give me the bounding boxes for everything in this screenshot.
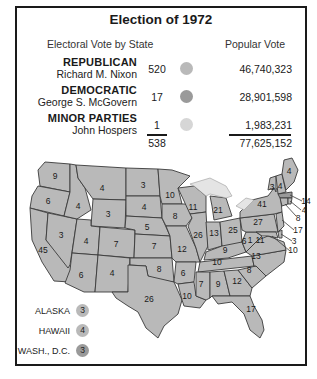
svg-text:4: 4 bbox=[100, 183, 105, 193]
svg-text:3: 3 bbox=[270, 182, 275, 192]
svg-text:41: 41 bbox=[257, 199, 267, 209]
svg-text:21: 21 bbox=[213, 205, 223, 215]
svg-text:8: 8 bbox=[157, 264, 162, 274]
svg-text:10: 10 bbox=[288, 245, 298, 255]
svg-text:13: 13 bbox=[209, 228, 219, 238]
svg-text:8: 8 bbox=[173, 211, 178, 221]
svg-text:9: 9 bbox=[53, 171, 58, 181]
svg-text:8: 8 bbox=[247, 265, 252, 275]
svg-text:6: 6 bbox=[46, 196, 51, 206]
svg-text:4: 4 bbox=[142, 202, 147, 212]
svg-text:25: 25 bbox=[228, 225, 238, 235]
legend-dc: WASH., D.C.3 bbox=[10, 344, 89, 357]
svg-text:11: 11 bbox=[189, 202, 198, 212]
svg-text:27: 27 bbox=[253, 217, 263, 227]
svg-text:45: 45 bbox=[38, 245, 48, 255]
svg-text:17: 17 bbox=[246, 304, 256, 314]
svg-text:10: 10 bbox=[212, 257, 222, 267]
svg-text:8: 8 bbox=[296, 213, 301, 223]
svg-text:3: 3 bbox=[141, 180, 146, 190]
svg-text:9: 9 bbox=[216, 279, 221, 289]
us-map: 9 6 45 3 4 4 3 4 6 7 4 3 4 5 7 8 26 10 8… bbox=[0, 0, 317, 379]
legend-label: WASH., D.C. bbox=[10, 346, 70, 356]
svg-text:10: 10 bbox=[182, 291, 192, 301]
svg-text:26: 26 bbox=[144, 294, 154, 304]
svg-text:17: 17 bbox=[293, 225, 303, 235]
svg-text:6: 6 bbox=[79, 270, 84, 280]
svg-text:4: 4 bbox=[302, 205, 307, 215]
svg-text:12: 12 bbox=[177, 244, 187, 254]
alaska-votes-icon: 3 bbox=[76, 304, 89, 317]
dc-votes-icon: 3 bbox=[76, 344, 89, 357]
svg-text:12: 12 bbox=[232, 276, 242, 286]
svg-text:7: 7 bbox=[152, 241, 157, 251]
svg-text:4: 4 bbox=[110, 268, 115, 278]
legend-hawaii: HAWAII4 bbox=[10, 324, 89, 337]
svg-text:11: 11 bbox=[256, 235, 265, 245]
svg-text:6: 6 bbox=[181, 268, 186, 278]
svg-text:7: 7 bbox=[199, 279, 204, 289]
svg-text:9: 9 bbox=[223, 245, 228, 255]
svg-text:3: 3 bbox=[106, 209, 111, 219]
svg-text:10: 10 bbox=[165, 190, 175, 200]
svg-text:4: 4 bbox=[76, 201, 81, 211]
hawaii-votes-icon: 4 bbox=[76, 324, 89, 337]
svg-text:5: 5 bbox=[145, 222, 150, 232]
svg-text:1: 1 bbox=[248, 235, 253, 245]
svg-text:26: 26 bbox=[193, 230, 203, 240]
legend-label: ALASKA bbox=[10, 306, 70, 316]
svg-text:4: 4 bbox=[278, 181, 283, 191]
legend-alaska: ALASKA3 bbox=[10, 304, 89, 317]
svg-text:13: 13 bbox=[251, 251, 261, 261]
svg-text:6: 6 bbox=[242, 236, 247, 246]
state-fl bbox=[212, 296, 264, 338]
svg-text:4: 4 bbox=[287, 166, 292, 176]
svg-text:4: 4 bbox=[84, 236, 89, 246]
svg-text:7: 7 bbox=[114, 239, 119, 249]
legend-label: HAWAII bbox=[10, 326, 70, 336]
svg-text:3: 3 bbox=[59, 230, 64, 240]
